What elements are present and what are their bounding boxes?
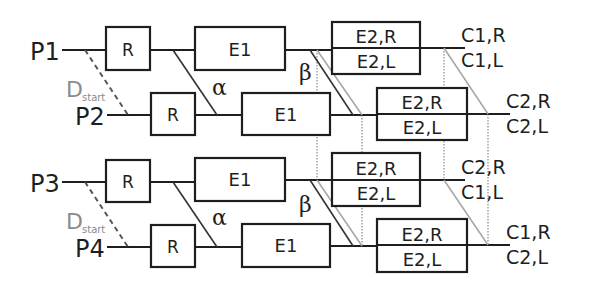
output-label: C2,R — [506, 90, 551, 112]
e1-block-label: E1 — [229, 39, 252, 60]
port-label-p2: P2 — [75, 103, 105, 131]
r-block-label: R — [167, 237, 179, 257]
r-block-label: R — [122, 172, 134, 192]
output-label: C1,R — [461, 24, 506, 46]
output-label: C2,L — [506, 246, 548, 268]
output-label: C2,R — [461, 156, 506, 178]
alpha-label: α — [212, 205, 227, 230]
d-start-label: D — [66, 209, 83, 234]
alpha-label: α — [212, 75, 227, 100]
e2l-label: E2,L — [403, 117, 442, 138]
r-block-label: R — [122, 40, 134, 60]
d-start-subscript: start — [82, 92, 105, 103]
output-label: C1,L — [461, 49, 503, 71]
port-label-p4: P4 — [75, 235, 105, 263]
e2l-label: E2,L — [357, 183, 396, 204]
output-label: C2,L — [506, 115, 548, 137]
e2r-label: E2,R — [401, 92, 442, 113]
pipeline-diagram: P1 P2 P3 P4 D start D start α β α β R R … — [0, 0, 596, 291]
e1-block-label: E1 — [275, 235, 298, 256]
port-label-p1: P1 — [30, 38, 60, 66]
port-label-p3: P3 — [30, 170, 60, 198]
d-start-subscript: start — [82, 224, 105, 235]
e2l-label: E2,L — [357, 51, 396, 72]
r-block-label: R — [167, 105, 179, 125]
e1-block-label: E1 — [229, 169, 252, 190]
beta-label: β — [299, 60, 312, 85]
e2r-label: E2,R — [355, 26, 396, 47]
d-start-label: D — [66, 77, 83, 102]
e2r-label: E2,R — [401, 224, 442, 245]
output-label: C1,L — [461, 181, 503, 203]
output-label: C1,R — [506, 221, 551, 243]
e2l-label: E2,L — [403, 249, 442, 270]
e2r-label: E2,R — [355, 158, 396, 179]
beta-label: β — [299, 192, 312, 217]
e1-block-label: E1 — [275, 104, 298, 125]
